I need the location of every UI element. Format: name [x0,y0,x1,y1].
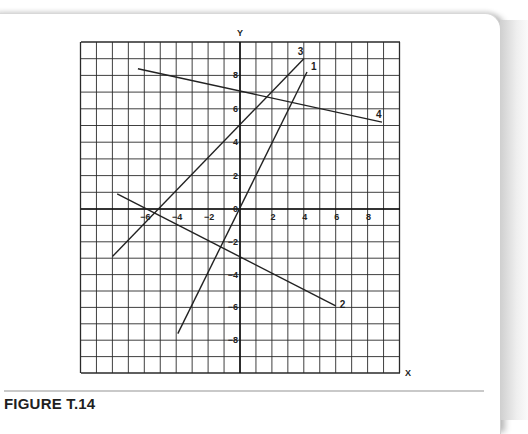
line-label-2: 2 [340,299,346,310]
line-label-1: 1 [311,61,317,72]
y-tick-label: 2 [233,171,238,181]
caption-separator [4,390,484,392]
x-axis-label: X [405,368,411,378]
figure-caption: FIGURE T.14 [4,395,95,412]
y-tick-label: −2 [228,237,238,247]
y-axis-label: Y [237,28,243,38]
x-tick-label: 8 [366,212,371,222]
data-lines: 1234 [112,46,382,334]
y-tick-label: 8 [233,70,238,80]
y-tick-label: −4 [228,270,238,280]
line-label-3: 3 [298,46,304,57]
x-tick-label: 2 [270,212,275,222]
y-tick-label: 4 [233,137,238,147]
line-4 [138,69,382,122]
x-tick-label: 6 [334,212,339,222]
y-tick-label: −8 [228,335,238,345]
y-tick-label: −6 [228,302,238,312]
line-label-4: 4 [376,109,382,120]
line-2 [117,194,336,306]
x-tick-label: −4 [172,212,182,222]
x-tick-label: −6 [140,212,150,222]
x-tick-label: −2 [204,212,214,222]
x-tick-label: 4 [302,212,307,222]
y-tick-label: 6 [233,104,238,114]
